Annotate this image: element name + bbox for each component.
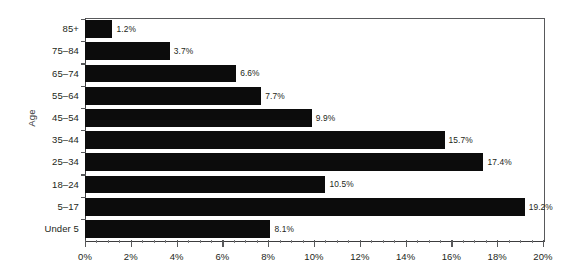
bar [85, 109, 312, 127]
x-axis-major-tick [314, 240, 315, 247]
x-axis-minor-tick [394, 240, 395, 243]
x-axis-minor-tick [325, 240, 326, 243]
bar-row: 10.5% [85, 176, 543, 194]
bar [85, 65, 236, 83]
x-axis-minor-tick [429, 240, 430, 243]
bar-row: 3.7% [85, 42, 543, 60]
x-axis-minor-tick [154, 240, 155, 243]
x-axis-tick-label: 20% [513, 251, 573, 262]
x-axis-major-tick [451, 240, 452, 247]
y-axis-tick-label: 5–17 [0, 202, 79, 212]
y-axis-tick-label: 18–24 [0, 180, 79, 190]
x-axis-minor-tick [348, 240, 349, 243]
y-axis-tick-label: 85+ [0, 24, 79, 34]
x-axis-minor-tick [337, 240, 338, 243]
x-axis-minor-tick [96, 240, 97, 243]
bar [85, 220, 270, 238]
y-axis-tick-label: 45–54 [0, 113, 79, 123]
x-axis-minor-tick [520, 240, 521, 243]
bar-row: 8.1% [85, 220, 543, 238]
x-axis-minor-tick [303, 240, 304, 243]
x-axis-minor-tick [165, 240, 166, 243]
x-axis-minor-tick [119, 240, 120, 243]
x-axis-major-tick [131, 240, 132, 247]
y-axis-tick-label: 35–44 [0, 135, 79, 145]
x-axis-minor-tick [440, 240, 441, 243]
bar-row: 19.2% [85, 198, 543, 216]
bar [85, 176, 325, 194]
bar-row: 6.6% [85, 65, 543, 83]
x-axis-minor-tick [291, 240, 292, 243]
bar [85, 42, 170, 60]
x-axis-minor-tick [245, 240, 246, 243]
bar-value-label: 6.6% [240, 68, 260, 78]
bar-row: 1.2% [85, 20, 543, 38]
bar-value-label: 3.7% [174, 46, 194, 56]
x-axis-minor-tick [474, 240, 475, 243]
bar-value-label: 15.7% [449, 135, 473, 145]
bar-value-label: 9.9% [316, 113, 336, 123]
x-axis-major-tick [222, 240, 223, 247]
x-axis-major-tick [497, 240, 498, 247]
y-axis-tick-labels: 85+75–8465–7455–6445–5435–4425–3418–245–… [0, 18, 79, 240]
y-axis-tick-label: 75–84 [0, 46, 79, 56]
bar [85, 131, 445, 149]
x-axis-minor-tick [108, 240, 109, 243]
bar-value-label: 10.5% [329, 179, 353, 189]
bar [85, 153, 483, 171]
x-axis-minor-tick [383, 240, 384, 243]
x-axis-minor-tick [200, 240, 201, 243]
x-axis-major-tick [406, 240, 407, 247]
x-axis-minor-tick [532, 240, 533, 243]
bar-row: 15.7% [85, 131, 543, 149]
y-axis-tick-label: 65–74 [0, 69, 79, 79]
bar-value-label: 8.1% [274, 224, 294, 234]
x-axis-tickmarks [85, 240, 543, 248]
y-axis-tick-label: 55–64 [0, 91, 79, 101]
bar-chart: Age 85+75–8465–7455–6445–5435–4425–3418–… [0, 0, 582, 277]
x-axis-minor-tick [509, 240, 510, 243]
bar-row: 17.4% [85, 153, 543, 171]
x-axis-major-tick [360, 240, 361, 247]
x-axis-major-tick [543, 240, 544, 247]
x-axis-minor-tick [142, 240, 143, 243]
x-axis-tick-labels: 0%2%4%6%8%10%12%14%16%18%20% [0, 251, 582, 267]
y-axis-tick-label: Under 5 [0, 224, 79, 234]
bars-layer: 1.2%3.7%6.6%7.7%9.9%15.7%17.4%10.5%19.2%… [85, 18, 543, 240]
x-axis-minor-tick [417, 240, 418, 243]
bar [85, 198, 525, 216]
x-axis-minor-tick [463, 240, 464, 243]
x-axis-minor-tick [234, 240, 235, 243]
x-axis-minor-tick [371, 240, 372, 243]
y-axis-tick-label: 25–34 [0, 157, 79, 167]
bar-value-label: 1.2% [116, 24, 136, 34]
x-axis-major-tick [177, 240, 178, 247]
x-axis-minor-tick [486, 240, 487, 243]
bar [85, 87, 261, 105]
bar-value-label: 7.7% [265, 91, 285, 101]
bar-value-label: 17.4% [487, 157, 511, 167]
x-axis-major-tick [85, 240, 86, 247]
x-axis-minor-tick [188, 240, 189, 243]
bar-row: 7.7% [85, 87, 543, 105]
bar [85, 20, 112, 38]
x-axis-minor-tick [211, 240, 212, 243]
bar-value-label: 19.2% [529, 202, 553, 212]
x-axis-major-tick [268, 240, 269, 247]
x-axis-minor-tick [280, 240, 281, 243]
bar-row: 9.9% [85, 109, 543, 127]
x-axis-minor-tick [257, 240, 258, 243]
